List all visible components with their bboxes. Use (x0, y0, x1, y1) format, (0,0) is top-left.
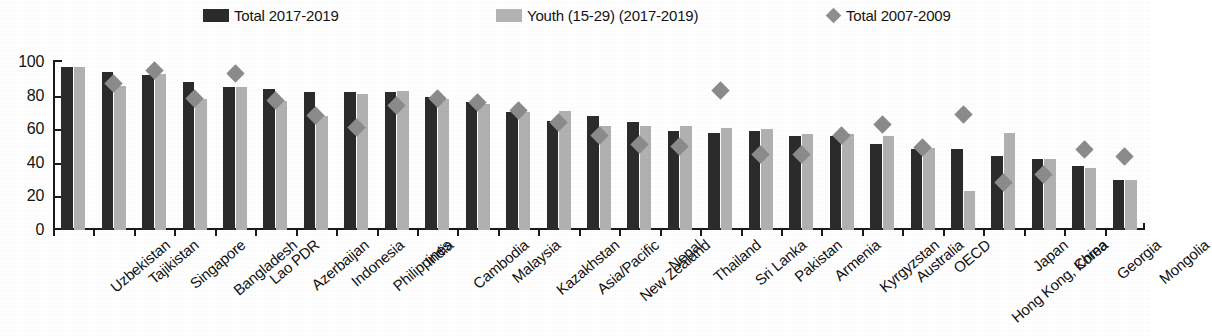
bar-youth-15-29 (357, 94, 369, 230)
bar-group (466, 62, 490, 230)
bar-youth-15-29 (276, 101, 288, 230)
bar-youth-15-29 (438, 99, 450, 230)
x-axis-category-label: Mongolia (1156, 236, 1212, 287)
bar-group (102, 62, 126, 230)
bar-total-2017-2019 (263, 89, 275, 230)
y-axis-tick-label: 20 (27, 187, 44, 205)
bar-group (789, 62, 813, 230)
bar-total-2017-2019 (830, 136, 842, 230)
bar-group (870, 62, 894, 230)
y-axis-tick-labels: 020406080100 (0, 0, 46, 336)
bar-youth-15-29 (478, 104, 490, 230)
bar-series-layer (53, 62, 1145, 230)
bar-youth-15-29 (761, 129, 773, 230)
bar-youth-15-29 (842, 134, 854, 230)
bar-total-2017-2019 (344, 92, 356, 230)
bar-group (627, 62, 651, 230)
bar-total-2017-2019 (142, 75, 154, 230)
bar-group (911, 62, 935, 230)
bar-total-2017-2019 (506, 112, 518, 230)
bar-group (344, 62, 368, 230)
bar-total-2017-2019 (870, 144, 882, 230)
marker-total-2007-2009 (711, 81, 729, 99)
bar-group (223, 62, 247, 230)
bar-group (142, 62, 166, 230)
bar-youth-15-29 (883, 136, 895, 230)
bar-group (749, 62, 773, 230)
bar-group (991, 62, 1015, 230)
bar-total-2017-2019 (102, 72, 114, 230)
marker-total-2007-2009 (226, 65, 244, 83)
bar-youth-15-29 (316, 116, 328, 230)
y-axis-tick-label: 80 (27, 87, 44, 105)
bar-total-2017-2019 (911, 149, 923, 230)
bar-youth-15-29 (236, 87, 248, 230)
bar-total-2017-2019 (223, 87, 235, 230)
y-axis-tick-label: 40 (27, 154, 44, 172)
bar-group (668, 62, 692, 230)
bar-group (587, 62, 611, 230)
bar-group (951, 62, 975, 230)
bar-youth-15-29 (519, 112, 531, 230)
bar-group (1072, 62, 1096, 230)
bar-group (304, 62, 328, 230)
bar-total-2017-2019 (466, 102, 478, 230)
bar-youth-15-29 (155, 74, 167, 230)
marker-total-2007-2009 (873, 115, 891, 133)
bar-youth-15-29 (195, 99, 207, 230)
bar-group (830, 62, 854, 230)
bar-group (506, 62, 530, 230)
bar-group (547, 62, 571, 230)
bar-total-2017-2019 (951, 149, 963, 230)
bar-total-2017-2019 (547, 121, 559, 230)
bar-total-2017-2019 (1113, 180, 1125, 230)
marker-total-2007-2009 (1075, 140, 1093, 158)
bar-youth-15-29 (923, 148, 935, 230)
bar-group (385, 62, 409, 230)
bar-youth-15-29 (114, 86, 126, 230)
bar-total-2017-2019 (991, 156, 1003, 230)
bar-group (1113, 62, 1137, 230)
bar-youth-15-29 (1125, 180, 1137, 230)
bar-group (61, 62, 85, 230)
chart-axes (53, 62, 1145, 230)
bar-total-2017-2019 (425, 97, 437, 230)
bar-group (708, 62, 732, 230)
y-axis-tick-label: 100 (18, 53, 44, 71)
y-axis-tick-label: 0 (35, 221, 44, 239)
bar-group (1032, 62, 1056, 230)
marker-total-2007-2009 (1116, 147, 1134, 165)
bar-group (425, 62, 449, 230)
bar-youth-15-29 (74, 67, 86, 230)
bar-group (263, 62, 287, 230)
bar-youth-15-29 (721, 128, 733, 230)
bar-group (183, 62, 207, 230)
bar-total-2017-2019 (61, 67, 73, 230)
bar-youth-15-29 (964, 191, 976, 230)
marker-total-2007-2009 (954, 105, 972, 123)
bar-total-2017-2019 (1072, 166, 1084, 230)
y-axis-tick-label: 60 (27, 120, 44, 138)
bar-total-2017-2019 (708, 133, 720, 230)
bar-youth-15-29 (1085, 168, 1097, 230)
x-axis-category-labels: UzbekistanTajikistanSingaporeBangladeshL… (53, 236, 1145, 336)
